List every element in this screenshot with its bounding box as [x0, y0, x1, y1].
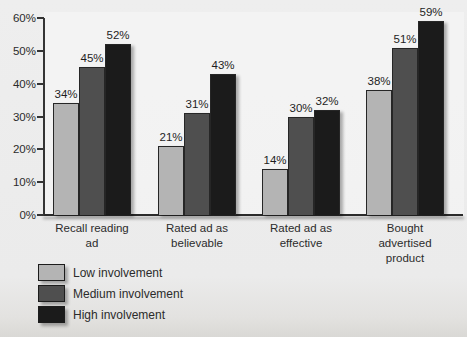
bar-low-group-4	[366, 90, 392, 215]
category-label-3: Rated ad as effective	[259, 221, 343, 251]
bar-high-group-3	[314, 110, 340, 215]
legend-item-medium: Medium involvement	[38, 285, 183, 302]
y-tick-label: 50%	[2, 45, 36, 57]
legend-swatch-high	[38, 306, 65, 323]
bar-value-label: 43%	[201, 59, 245, 72]
legend-label-medium: Medium involvement	[73, 287, 183, 301]
legend-item-low: Low involvement	[38, 264, 183, 281]
bar-low-group-1	[53, 103, 79, 215]
y-tick-mark	[37, 181, 44, 183]
bar-high-group-2	[210, 74, 236, 215]
y-tick-mark	[37, 214, 44, 216]
y-tick-mark	[37, 83, 44, 85]
bar-value-label: 59%	[409, 6, 453, 19]
y-tick-mark	[37, 116, 44, 118]
bar-medium-group-3	[288, 117, 314, 216]
bar-value-label: 52%	[96, 29, 140, 42]
legend-item-high: High involvement	[38, 306, 183, 323]
y-tick-mark	[37, 148, 44, 150]
bar-medium-group-4	[392, 48, 418, 215]
bar-low-group-2	[158, 146, 184, 215]
chart-legend: Low involvement Medium involvement High …	[38, 264, 183, 327]
bar-high-group-4	[418, 21, 444, 215]
legend-label-high: High involvement	[73, 308, 165, 322]
legend-swatch-low	[38, 264, 65, 281]
y-tick-label: 60%	[2, 12, 36, 24]
y-tick-label: 30%	[2, 111, 36, 123]
bar-value-label: 32%	[305, 95, 349, 108]
y-tick-label: 20%	[2, 143, 36, 155]
bar-medium-group-1	[79, 67, 105, 215]
y-tick-label: 0%	[2, 209, 36, 221]
legend-swatch-medium	[38, 285, 65, 302]
category-label-1: Recall reading ad	[50, 221, 134, 251]
legend-label-low: Low involvement	[73, 266, 162, 280]
y-tick-mark	[37, 50, 44, 52]
category-label-2: Rated ad as believable	[155, 221, 239, 251]
bar-high-group-1	[105, 44, 131, 215]
y-tick-mark	[37, 17, 44, 19]
grouped-bar-chart-figure: 0%10%20%30%40%50%60% 34%45%52%21%31%43%1…	[0, 0, 467, 337]
bar-medium-group-2	[184, 113, 210, 215]
y-tick-label: 10%	[2, 176, 36, 188]
bar-low-group-3	[262, 169, 288, 215]
category-label-4: Bought advertised product	[363, 221, 447, 266]
y-tick-label: 40%	[2, 78, 36, 90]
